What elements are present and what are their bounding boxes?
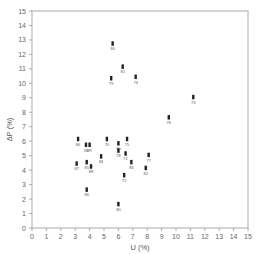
y-tick-label: 0 [22,225,26,232]
data-point-marker [111,41,113,46]
data-point-label: 70 [105,142,110,147]
data-point-label: 78 [116,153,121,158]
y-axis-title: ΔP (%) [5,117,14,141]
y-tick-label: 10 [18,80,26,87]
data-point-marker [75,161,77,166]
data-point-label: 87 [74,166,79,171]
data-point-marker [117,141,119,146]
data-point-marker [123,173,125,178]
x-tick-label: 9 [160,233,164,240]
data-point-marker [126,137,128,142]
data-point-label: 81 [120,69,125,74]
data-point-label: 80 [116,207,121,212]
data-point-marker [117,202,119,207]
x-tick-label: 2 [59,233,63,240]
x-tick-label: 10 [172,233,180,240]
y-tick-label: 1 [22,210,26,217]
data-point-label: 73 [191,100,196,105]
data-point-marker [147,153,149,158]
y-tick-label: 4 [22,167,26,174]
data-point-label: 71 [123,156,128,161]
y-tick-label: 2 [22,196,26,203]
y-tick-label: 13 [18,36,26,43]
data-point-label: 84 [99,159,104,164]
data-point-label: 72 [122,178,127,183]
data-point-marker [85,143,87,148]
data-point-marker [122,64,124,69]
x-tick-label: 8 [145,233,149,240]
data-point-label: 74 [133,80,138,85]
data-point-marker [100,154,102,159]
data-point-label: 89 [87,148,92,153]
y-tick-label: 3 [22,181,26,188]
x-tick-label: 11 [187,233,194,240]
x-tick-label: 0 [30,233,34,240]
data-point-label: 80 [110,46,115,51]
y-tick-label: 12 [18,51,26,58]
data-point-label: 75 [125,142,130,147]
data-point-label: 79 [109,81,114,86]
data-point-marker [134,75,136,80]
x-tick-label: 1 [44,233,48,240]
data-point-marker [88,143,90,148]
plot-frame [32,11,248,228]
x-tick-label: 6 [116,233,120,240]
y-tick-label: 9 [22,94,26,101]
data-point-label: 86 [76,142,81,147]
data-point-label: 86 [84,192,89,197]
y-tick-label: 14 [18,22,26,29]
data-point-label: 88 [89,169,94,174]
x-tick-label: 15 [244,233,252,240]
x-tick-label: 7 [131,233,135,240]
x-tick-label: 12 [201,233,209,240]
data-point-marker [106,137,108,142]
data-point-marker [130,160,132,165]
y-tick-label: 15 [18,8,26,15]
y-tick-label: 11 [19,65,26,72]
x-axis-title: U (%) [130,243,150,252]
x-tick-label: 5 [102,233,106,240]
y-tick-label: 7 [22,123,26,130]
data-point-marker [86,187,88,192]
data-point-marker [124,151,126,156]
data-point-label: 83 [129,165,134,170]
x-tick-label: 3 [73,233,77,240]
y-tick-label: 5 [22,152,26,159]
data-point-marker [192,95,194,100]
data-point-label: 77 [146,158,151,163]
data-point-marker [168,115,170,120]
y-tick-label: 6 [22,138,26,145]
y-tick-label: 8 [22,109,26,116]
x-tick-label: 14 [230,233,238,240]
scatter-chart: 0123456789101112131415012345678910111213… [0,0,258,254]
data-point-marker [110,76,112,81]
x-tick-label: 13 [215,233,223,240]
data-point-marker [86,160,88,165]
data-point-marker [145,166,147,171]
x-tick-label: 4 [88,233,92,240]
data-point-marker [90,164,92,169]
data-point-marker [77,137,79,142]
data-point-marker [117,148,119,153]
data-point-label: 76 [167,120,172,125]
data-point-label: 82 [144,171,149,176]
